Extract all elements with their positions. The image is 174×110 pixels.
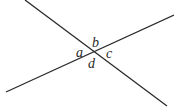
- intersecting-lines-diagram: a b c d: [0, 0, 174, 110]
- angle-label-c: c: [106, 46, 113, 61]
- line-1: [25, 0, 167, 106]
- angle-label-b: b: [92, 35, 99, 50]
- angle-label-d: d: [88, 56, 96, 71]
- angle-label-a: a: [76, 45, 83, 60]
- line-2: [6, 15, 174, 92]
- diagram-svg: a b c d: [0, 0, 174, 110]
